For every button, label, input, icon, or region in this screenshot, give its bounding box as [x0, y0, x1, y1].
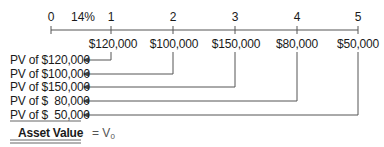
pv-row-3: PV of $150,000 [10, 81, 90, 93]
arrow-pv-2 [84, 52, 173, 74]
asset-value-label: Asset Value [18, 127, 83, 139]
discount-rate-label: 14% [71, 11, 95, 23]
cash-flow-1: $120,000 [89, 38, 137, 50]
cash-flow-2: $100,000 [150, 38, 198, 50]
pv-row-5: PV of $ 50,000 [10, 109, 90, 121]
period-label-2: 2 [170, 11, 177, 23]
period-label-3: 3 [232, 11, 239, 23]
cash-flow-4: $80,000 [276, 38, 318, 50]
period-label-1: 1 [108, 11, 115, 23]
value-subscript: 0 [110, 132, 114, 141]
asset-value-formula: = V0 [92, 127, 115, 143]
cash-flow-3: $150,000 [212, 38, 260, 50]
arrow-pv-5 [84, 52, 358, 115]
period-label-0: 0 [48, 11, 55, 23]
arrow-pv-3 [84, 52, 235, 87]
pv-row-4: PV of $ 80,000 [10, 95, 90, 107]
pv-row-2: PV of $100,000 [10, 68, 90, 80]
pv-row-1: PV of $120,000 [10, 54, 90, 66]
period-label-4: 4 [294, 11, 301, 23]
cash-flow-5: $50,000 [337, 38, 379, 50]
arrow-pv-4 [84, 52, 297, 101]
period-label-5: 5 [355, 11, 362, 23]
equals-sign: = [92, 126, 99, 140]
